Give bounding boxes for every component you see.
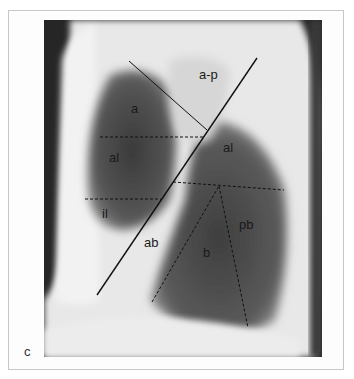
label-pb: pb [239,218,253,231]
label-b: b [203,246,210,259]
label-ab: ab [144,236,158,249]
label-a-p: a-p [199,68,218,81]
label-il: il [102,207,108,220]
chest-xray-image [44,20,322,357]
panel-label: c [24,344,31,359]
label-al-right: al [223,141,233,154]
label-al-left: al [109,151,119,164]
xray-rendering [44,20,322,357]
label-a: a [131,102,138,115]
